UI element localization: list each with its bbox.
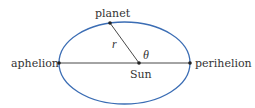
perihelion-label: perihelion xyxy=(195,57,252,70)
orbit-diagram: planet r θ aphelion Sun perihelion xyxy=(0,0,255,108)
sun-point xyxy=(137,61,141,65)
planet-label: planet xyxy=(95,7,131,20)
aphelion-label: aphelion xyxy=(11,57,59,70)
planet-point xyxy=(108,21,112,25)
perihelion-point xyxy=(188,61,192,65)
angle-label: θ xyxy=(143,48,149,62)
sun-label: Sun xyxy=(130,68,152,81)
radius-label: r xyxy=(112,37,117,51)
